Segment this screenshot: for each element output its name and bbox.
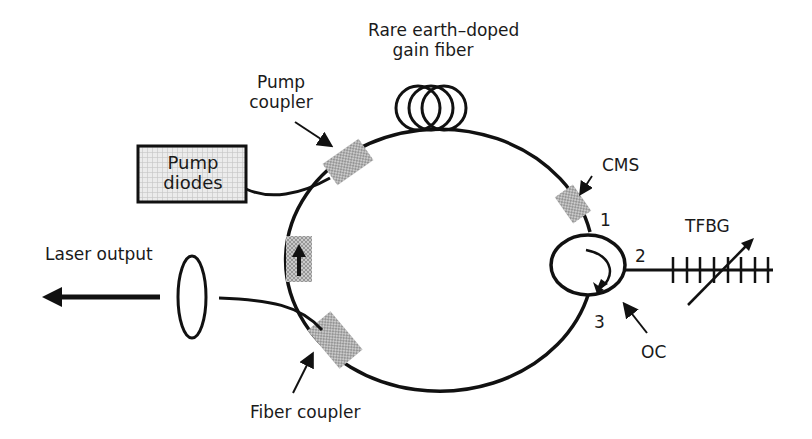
oc-label: OC (641, 342, 666, 362)
pump-coupler-label: Pump coupler (246, 72, 316, 112)
pump-diodes-label-line1: Pump (158, 153, 228, 173)
port-1-label: 1 (600, 210, 611, 230)
gain-fiber-coil-icon (396, 86, 466, 130)
pump-coupler-pointer-icon (295, 122, 330, 145)
gain-fiber-label: Rare earth–doped gain fiber (368, 20, 498, 60)
pump-diodes-label: Pump diodes (158, 153, 228, 193)
cms-label: CMS (602, 155, 639, 175)
cms-pointer-icon (581, 176, 592, 193)
fiber-coupler-pointer-icon (293, 355, 312, 393)
laser-output-label: Laser output (45, 244, 153, 264)
pump-coupler-label-line1: Pump (246, 72, 316, 92)
isolator-component (286, 236, 312, 282)
oc-pointer-icon (625, 305, 647, 333)
gain-fiber-label-line1: Rare earth–doped (368, 20, 498, 40)
laser-output-arrow-icon (42, 287, 160, 307)
gain-fiber-label-line2: gain fiber (368, 40, 498, 60)
lens-icon (178, 256, 206, 338)
port-3-label: 3 (594, 312, 605, 332)
port-2-label: 2 (635, 246, 646, 266)
optical-circulator-icon (551, 235, 625, 295)
tfbg-label: TFBG (685, 216, 730, 236)
fiber-coupler-label: Fiber coupler (250, 402, 360, 422)
fiber-coupler-component (307, 311, 362, 369)
pump-coupler-label-line2: coupler (246, 92, 316, 112)
pump-diodes-label-line2: diodes (158, 173, 228, 193)
